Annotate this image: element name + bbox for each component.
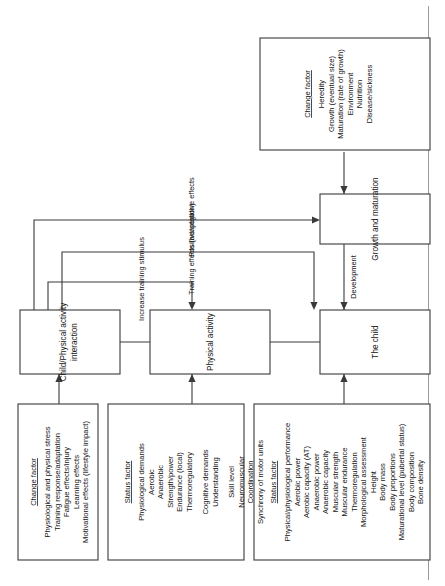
status-child-item-0: Physical/physiological performance xyxy=(283,423,292,542)
node-growth-and-maturation-label: Growth and maturation xyxy=(371,177,380,261)
box-status-factor-child-heading: Status factor xyxy=(269,460,278,503)
status-child-item-5: Muscular strength xyxy=(331,452,340,512)
change-growth-item-5: Disease/sickness xyxy=(365,64,374,123)
change-interaction-item-4: Motivational effects (lifestyle impact) xyxy=(81,421,90,543)
status-child-item-2: Aerobic capacity (AT) xyxy=(302,446,311,518)
change-growth-item-3: Environment xyxy=(346,72,355,116)
status-activity-item-11: Neuromuscular xyxy=(237,456,246,508)
status-activity-item-4: Endurance (local) xyxy=(175,452,184,512)
edge-label-development: Development xyxy=(349,255,358,299)
status-child-item-4: Anaerobic capacity xyxy=(321,450,330,514)
node-the-child[interactable]: The child xyxy=(320,310,430,374)
status-activity-item-2: Anaerobic xyxy=(156,465,165,499)
status-activity-item-1: Aerobic xyxy=(147,469,156,495)
diagram-canvas: Development Increase training stimulus T… xyxy=(0,0,445,586)
node-interaction-label-line1: Child/Physical activity xyxy=(59,302,68,382)
node-physical-activity[interactable]: Physical activity xyxy=(150,310,270,374)
status-child-item-3: Anaerobic power xyxy=(312,453,321,510)
status-child-item-10: Body mass xyxy=(378,463,387,501)
status-activity-item-5: Thermoregulatory xyxy=(185,452,194,512)
change-growth-item-0: Heredity xyxy=(317,80,326,108)
status-activity-item-12: Coordination xyxy=(246,460,255,503)
box-status-factor-activity-heading: Status factor xyxy=(123,460,132,503)
status-child-item-9: Height xyxy=(369,470,378,493)
status-child-item-11: Body proportions xyxy=(388,453,397,511)
edge-label-positive-negative-effects: Positive/negative effects xyxy=(187,177,196,257)
status-child-item-12: Maturational level (pubertal status) xyxy=(397,423,406,540)
node-child-physical-activity-interaction[interactable]: Child/Physical activity interaction xyxy=(20,302,120,382)
status-activity-item-13: Synchrony of motor units xyxy=(256,440,265,524)
node-interaction-label-line2: interaction xyxy=(70,323,79,361)
box-status-factor-activity[interactable]: Status factor Physiological demands Aero… xyxy=(108,404,265,560)
box-change-factor-growth[interactable]: Change factor Heredity Growth (eventual … xyxy=(260,38,430,150)
status-activity-item-8: Understanding xyxy=(211,457,220,506)
change-growth-item-4: Nutrition xyxy=(355,80,364,108)
status-child-item-14: Bone density xyxy=(416,460,425,504)
change-interaction-item-0: Physiological and physical stress xyxy=(43,426,52,537)
flowchart-svg: Development Increase training stimulus T… xyxy=(0,0,445,586)
status-child-item-6: Muscular endurance xyxy=(340,448,349,517)
status-child-item-7: Thermoregulation xyxy=(350,452,359,512)
box-change-factor-interaction-heading: Change factor xyxy=(29,458,38,506)
box-change-factor-growth-heading: Change factor xyxy=(303,70,312,118)
node-physical-activity-label: Physical activity xyxy=(206,312,215,371)
status-activity-item-0: Physiological demands xyxy=(137,443,146,521)
status-child-item-1: Aerobic power xyxy=(293,457,302,506)
node-the-child-label: The child xyxy=(371,325,380,359)
status-activity-item-10: Skill level xyxy=(227,466,236,498)
status-activity-item-7: Cognitive demands xyxy=(201,449,210,514)
change-interaction-item-3: Learning effects xyxy=(72,455,81,509)
box-status-factor-child[interactable]: Status factor Physical/physiological per… xyxy=(254,404,430,560)
change-interaction-item-1: Training response/adaptation xyxy=(53,433,62,531)
change-interaction-item-2: Fatigue effects/injury xyxy=(62,447,71,517)
status-child-item-8: Morphological assessment xyxy=(359,436,368,527)
status-child-item-13: Body composition xyxy=(407,452,416,512)
change-growth-item-2: Maturation (rate of growth) xyxy=(336,49,345,139)
edge-label-increase-training-stimulus: Increase training stimulus xyxy=(137,237,146,321)
change-growth-item-1: Growth (eventual size) xyxy=(327,56,336,132)
box-change-factor-interaction[interactable]: Change factor Physiological and physical… xyxy=(18,404,98,560)
status-activity-item-3: Strength/power xyxy=(166,456,175,508)
